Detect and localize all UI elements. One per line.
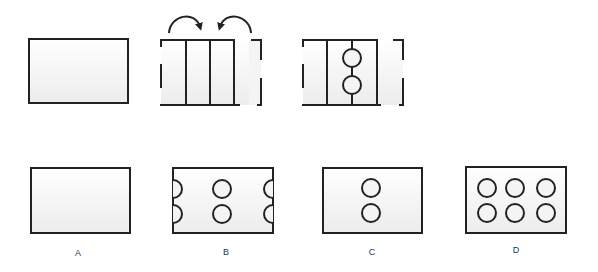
half-hole-icon: [173, 180, 182, 198]
hole-icon: [506, 204, 524, 222]
half-hole-icon: [264, 205, 273, 223]
option-a-label: A: [75, 249, 81, 258]
hole-icon: [213, 180, 231, 198]
hole-icon: [362, 204, 380, 222]
half-hole-icon: [173, 205, 182, 223]
folding-diagram: [0, 0, 598, 272]
step-3-punched-sheet: [302, 39, 403, 105]
hole-icon: [506, 179, 524, 197]
fold-left-arrow: [220, 17, 251, 33]
step-1-unfolded-sheet: [29, 39, 128, 103]
hole-icon: [478, 179, 496, 197]
option-c[interactable]: [323, 168, 422, 233]
option-c-label: C: [369, 248, 376, 257]
half-hole-icon: [264, 180, 273, 198]
punched-hole-icon: [343, 76, 361, 94]
hole-icon: [537, 179, 555, 197]
option-d-label: D: [513, 246, 520, 255]
punched-hole-icon: [343, 49, 361, 67]
hole-icon: [362, 179, 380, 197]
hole-icon: [213, 205, 231, 223]
hole-icon: [537, 204, 555, 222]
hole-icon: [478, 204, 496, 222]
option-b-label: B: [223, 248, 229, 257]
fold-right-arrow: [169, 17, 200, 33]
option-d[interactable]: [466, 167, 566, 233]
option-a[interactable]: [31, 168, 130, 233]
option-b[interactable]: [173, 168, 273, 233]
step-2-folding-sheet: [160, 17, 261, 105]
